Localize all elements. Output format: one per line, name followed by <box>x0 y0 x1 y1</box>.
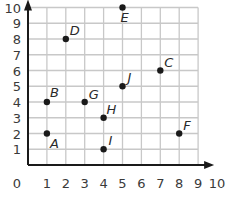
y-tick-label: 8 <box>13 32 21 47</box>
point-label: F <box>183 118 191 133</box>
data-point <box>63 36 69 42</box>
y-axis-arrow-icon <box>24 0 32 11</box>
data-point <box>100 146 106 152</box>
y-tick-label: 9 <box>13 16 21 31</box>
data-point <box>119 83 125 89</box>
y-tick-label: 2 <box>13 127 21 142</box>
x-tick-label: 9 <box>194 176 202 191</box>
y-tick-label: 3 <box>13 111 21 126</box>
x-tick-label: 0 <box>13 176 21 191</box>
y-tick-label: 6 <box>13 64 21 79</box>
x-tick-label: 7 <box>156 176 164 191</box>
x-tick-label: 4 <box>99 176 107 191</box>
tick-labels: 01234567891012345678910 <box>4 1 225 192</box>
point-label: I <box>109 133 113 148</box>
x-tick-label: 1 <box>43 176 51 191</box>
y-tick-label: 10 <box>4 1 21 16</box>
coordinate-grid-chart: 01234567891012345678910 ABCDEFGHIJ <box>0 0 231 202</box>
y-tick-label: 1 <box>13 142 21 157</box>
y-tick-label: 4 <box>13 95 21 110</box>
data-point <box>82 99 88 105</box>
x-tick-label: 5 <box>118 176 126 191</box>
x-axis-arrow-icon <box>204 161 214 169</box>
x-tick-label: 8 <box>175 176 183 191</box>
point-label: B <box>50 85 59 100</box>
point-label: C <box>164 55 174 70</box>
data-point <box>176 130 182 136</box>
point-label: H <box>107 102 117 117</box>
x-tick-label: 2 <box>62 176 70 191</box>
x-tick-label: 10 <box>209 176 226 191</box>
y-tick-label: 7 <box>13 48 21 63</box>
x-tick-label: 3 <box>81 176 89 191</box>
point-label: J <box>125 70 132 85</box>
point-label: G <box>89 87 99 102</box>
point-label: D <box>70 23 80 38</box>
point-label: E <box>121 10 130 25</box>
data-point <box>157 67 163 73</box>
x-tick-label: 6 <box>137 176 145 191</box>
point-label: A <box>49 136 59 151</box>
y-tick-label: 5 <box>13 79 21 94</box>
